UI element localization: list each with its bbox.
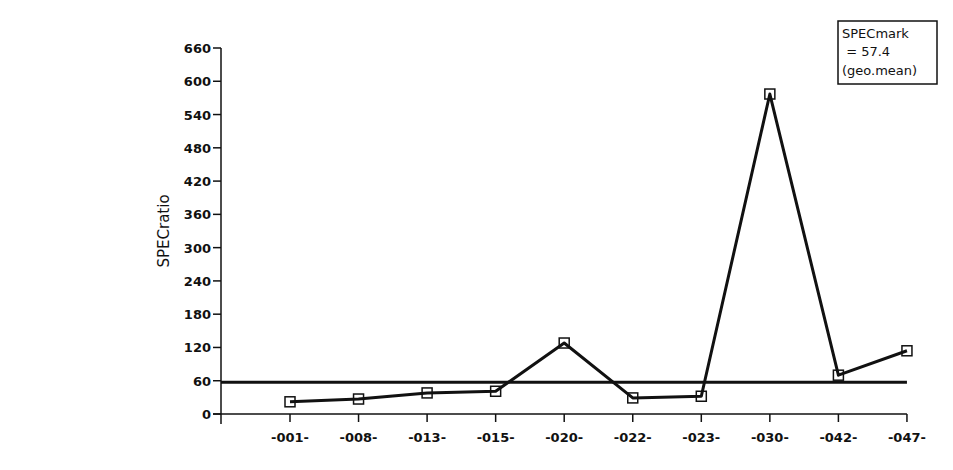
y-tick-label: 0 (202, 407, 211, 422)
y-tick-label: 300 (184, 241, 211, 256)
data-series (285, 89, 912, 407)
y-tick-label: 540 (184, 108, 211, 123)
y-tick-label: 240 (184, 274, 211, 289)
y-tick-label: 660 (184, 41, 211, 56)
legend-line-2: = 57.4 (842, 44, 890, 59)
legend-box: SPECmark = 57.4 (geo.mean) (838, 21, 937, 84)
x-tick-label: -015- (477, 430, 515, 445)
y-tick-label: 480 (184, 141, 211, 156)
x-tick-label: -001- (271, 430, 309, 445)
x-tick-label: -023- (682, 430, 720, 445)
y-tick-label: 360 (184, 207, 211, 222)
y-axis: 060120180240300360420480540600660 (184, 41, 221, 424)
legend-line-3: (geo.mean) (842, 63, 917, 78)
y-tick-label: 60 (193, 374, 211, 389)
specratio-line-chart: 060120180240300360420480540600660 -001--… (0, 0, 953, 470)
x-axis: -001--008--013--015--020--022--023--030-… (213, 414, 926, 445)
y-tick-label: 600 (184, 74, 211, 89)
x-tick-label: -042- (819, 430, 857, 445)
x-tick-label: -030- (751, 430, 789, 445)
x-tick-label: -047- (888, 430, 926, 445)
y-axis-label: SPECratio (155, 194, 173, 267)
y-tick-label: 180 (184, 307, 211, 322)
x-tick-label: -008- (340, 430, 378, 445)
y-tick-label: 120 (184, 340, 211, 355)
legend-line-1: SPECmark (842, 26, 909, 41)
y-tick-label: 420 (184, 174, 211, 189)
x-tick-label: -013- (408, 430, 446, 445)
x-tick-label: -022- (614, 430, 652, 445)
x-tick-label: -020- (545, 430, 583, 445)
